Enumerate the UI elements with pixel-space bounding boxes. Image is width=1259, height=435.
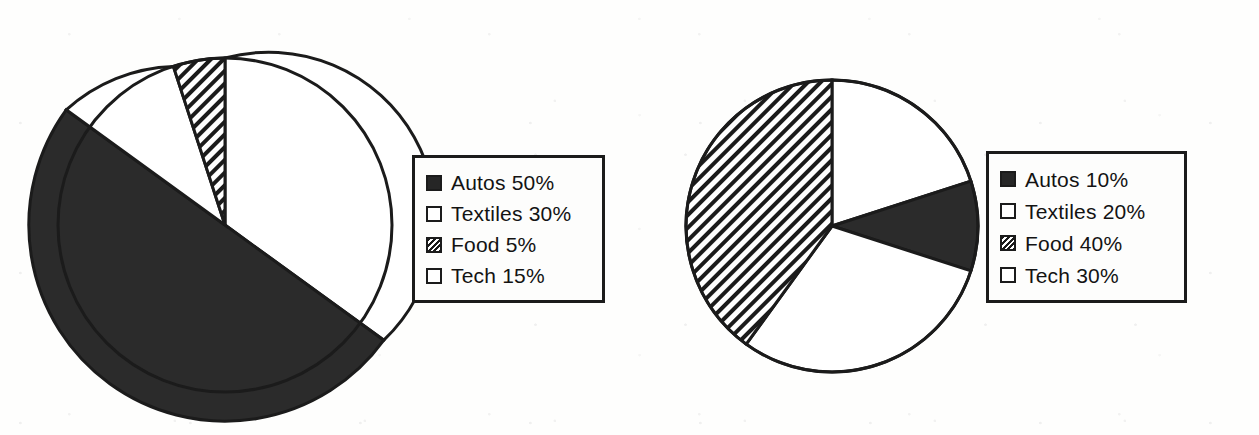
legend-label-food: Food 40%	[1025, 233, 1122, 254]
legend-label-tech: Tech 15%	[451, 265, 545, 286]
legend-label-autos: Autos 50%	[451, 172, 554, 193]
legend-label-tech: Tech 30%	[1025, 265, 1119, 286]
legend-swatch-food-hatch-icon	[1000, 235, 1016, 251]
legend-label-textiles: Textiles 30%	[451, 203, 571, 224]
pie-chart-page: Autos 50% Textiles 30% Food 5% Tech 15%	[0, 0, 1259, 435]
legend-item-food[interactable]: Food 5%	[426, 229, 588, 260]
legend-item-textiles[interactable]: Textiles 20%	[1000, 195, 1170, 227]
legend-swatch-tech-empty-icon	[1000, 267, 1016, 283]
legend-label-textiles: Textiles 20%	[1025, 201, 1145, 222]
legend-item-textiles[interactable]: Textiles 30%	[426, 198, 588, 229]
legend-item-tech[interactable]: Tech 30%	[1000, 259, 1170, 291]
legend-swatch-textiles-empty-icon	[426, 206, 442, 222]
legend-item-tech[interactable]: Tech 15%	[426, 260, 588, 291]
legend-item-food[interactable]: Food 40%	[1000, 227, 1170, 259]
right-chart-legend: Autos 10% Textiles 20% Food 40% Tech 30%	[986, 151, 1187, 303]
legend-swatch-food-hatch-icon	[426, 237, 442, 253]
legend-swatch-autos-solid-icon	[426, 175, 442, 191]
legend-swatch-tech-empty-icon	[426, 268, 442, 284]
left-chart-legend: Autos 50% Textiles 30% Food 5% Tech 15%	[412, 155, 605, 303]
legend-item-autos[interactable]: Autos 10%	[1000, 163, 1170, 195]
right-chart: Autos 10% Textiles 20% Food 40% Tech 30%	[620, 0, 1259, 435]
legend-label-autos: Autos 10%	[1025, 169, 1128, 190]
legend-swatch-autos-solid-icon	[1000, 171, 1016, 187]
left-chart: Autos 50% Textiles 30% Food 5% Tech 15%	[0, 0, 620, 435]
legend-item-autos[interactable]: Autos 50%	[426, 167, 588, 198]
legend-label-food: Food 5%	[451, 234, 536, 255]
legend-swatch-textiles-empty-icon	[1000, 203, 1016, 219]
